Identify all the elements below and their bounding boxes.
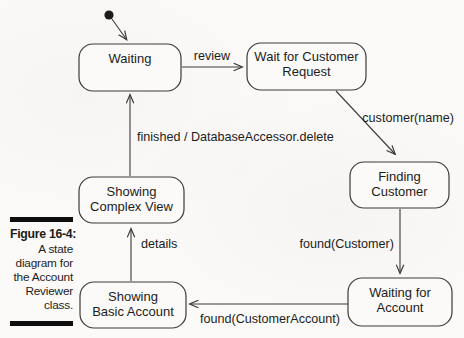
state-waiting-for-account-label-line1: Waiting for: [369, 285, 431, 300]
initial-transition-arrow: [112, 19, 127, 40]
transition-details: details: [131, 229, 177, 281]
state-waiting-for-account-label-line2: Account: [377, 300, 424, 315]
caption-line: Reviewer: [10, 284, 73, 298]
transition-customer-name-label: customer(name): [362, 111, 454, 125]
state-waiting: Waiting: [79, 44, 181, 91]
state-wait-for-customer-request-label-line1: Wait for Customer: [254, 49, 359, 64]
caption-line: diagram for: [10, 256, 73, 270]
transition-finished-label: finished / DatabaseAccessor.delete: [137, 130, 334, 144]
transition-found-customer: found(Customer): [300, 209, 401, 273]
transition-finished: finished / DatabaseAccessor.delete: [130, 95, 334, 176]
transition-review-label: review: [194, 49, 231, 63]
transition-found-customer-label: found(Customer): [300, 237, 395, 251]
transition-found-customer-account: found(CustomerAccount): [190, 304, 348, 326]
transition-found-customer-account-label: found(CustomerAccount): [200, 312, 340, 326]
initial-state-dot: [104, 10, 113, 19]
state-wait-for-customer-request-label-line2: Request: [282, 64, 331, 79]
initial-state: [104, 10, 126, 39]
state-waiting-label: Waiting: [109, 51, 152, 66]
state-finding-customer-label-line1: Finding: [378, 169, 421, 184]
state-showing-basic-account-label-line1: Showing: [108, 289, 158, 304]
state-showing-basic-account-label-line2: Basic Account: [92, 304, 174, 319]
state-showing-complex-view-label-line1: Showing: [107, 184, 157, 199]
caption-line: A state: [10, 242, 73, 256]
figure-caption: Figure 16-4: A state diagram for the Acc…: [10, 217, 73, 326]
state-showing-basic-account: Showing Basic Account: [80, 282, 186, 328]
state-showing-complex-view: Showing Complex View: [79, 177, 184, 223]
transition-review: review: [182, 49, 242, 67]
state-wait-for-customer-request: Wait for Customer Request: [247, 43, 366, 90]
caption-rule-top: [10, 217, 73, 222]
state-waiting-for-account: Waiting for Account: [348, 278, 452, 326]
figure-number: Figure 16-4:: [10, 227, 73, 242]
transition-customer-name: customer(name): [336, 91, 454, 154]
state-finding-customer: Finding Customer: [350, 162, 449, 208]
book-page-figure: review finished / DatabaseAccessor.delet…: [0, 0, 464, 338]
caption-line: the Account: [10, 270, 73, 284]
caption-line: class.: [10, 298, 73, 312]
transition-details-label: details: [141, 237, 177, 251]
caption-rule-bottom: [10, 321, 73, 326]
state-showing-complex-view-label-line2: Complex View: [90, 199, 173, 214]
state-finding-customer-label-line2: Customer: [371, 184, 428, 199]
